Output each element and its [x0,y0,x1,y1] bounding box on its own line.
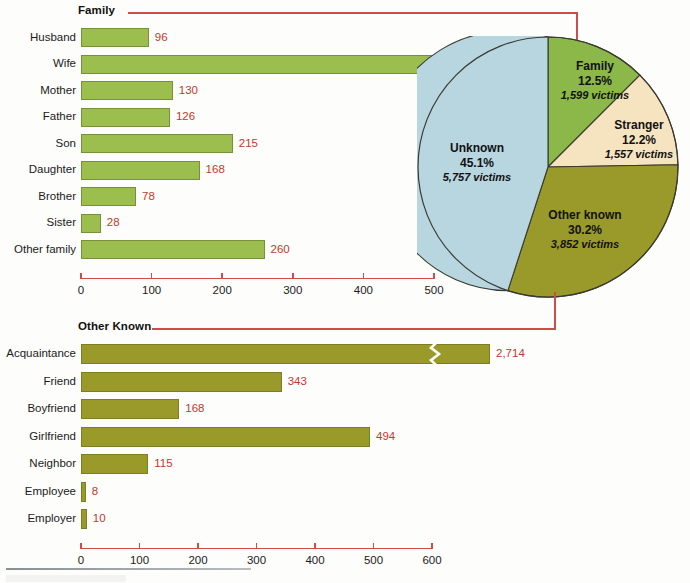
x-axis-tick [373,543,375,549]
bar-value-label: 10 [93,512,106,524]
bar[interactable] [81,344,490,364]
bar-value-label: 8 [92,485,98,497]
x-axis-tick-label: 100 [127,284,177,296]
x-axis-tick [363,273,365,279]
category-label: Boyfriend [0,402,76,414]
category-label: Other family [0,243,76,255]
bar-value-label: 168 [185,402,204,414]
category-label: Girlfriend [0,430,76,442]
x-axis-tick-label: 200 [197,284,247,296]
x-axis-tick [431,543,433,549]
bar-value-label: 215 [239,137,258,149]
category-label: Acquaintance [0,347,76,359]
x-axis-tick [221,273,223,279]
bar[interactable] [81,134,233,153]
bar-value-label: 96 [155,31,168,43]
category-label: Brother [0,190,76,202]
victim-offender-relationship-pie-chart: Family 12.5% 1,599 victims Stranger 12.2… [417,36,679,298]
pie-label-family: Family 12.5% 1,599 victims [540,59,650,103]
bar-value-label: 115 [154,457,172,469]
x-axis-line [81,278,434,280]
bar-value-label: 494 [376,430,395,442]
x-axis-tick-label: 0 [56,284,106,296]
x-axis-tick-label: 0 [56,554,106,566]
pie-label-stranger-percent: 12.2% [589,133,689,148]
pie-label-family-name: Family [540,59,650,74]
x-axis-tick [256,543,258,549]
x-axis-tick-label: 500 [349,554,399,566]
bar-value-label: 78 [142,190,155,202]
pie-label-other-known-victims: 3,852 victims [526,238,644,252]
bar[interactable] [81,240,265,259]
pie-label-unknown-victims: 5,757 victims [423,171,531,185]
other-known-section-title: Other Known [78,320,151,332]
bar[interactable] [81,28,149,47]
category-label: Son [0,137,76,149]
bar[interactable] [81,161,200,180]
category-label: Employee [0,485,76,497]
category-label: Father [0,110,76,122]
x-axis-tick [197,543,199,549]
pie-label-family-victims: 1,599 victims [540,89,650,103]
bar-value-label: 130 [179,84,198,96]
bar[interactable] [81,55,433,74]
footer-divider [6,568,251,570]
x-axis-tick-label: 600 [407,554,457,566]
x-axis-tick-label: 300 [268,284,318,296]
pie-label-stranger-name: Stranger [589,118,689,133]
pie-label-family-percent: 12.5% [540,74,650,89]
x-axis-tick [151,273,153,279]
x-axis-tick-label: 100 [115,554,165,566]
other-known-connector-horizontal [152,328,556,330]
x-axis-tick-label: 400 [290,554,340,566]
pie-label-stranger-victims: 1,557 victims [589,148,689,162]
category-label: Daughter [0,163,76,175]
bar-value-label: 168 [206,163,225,175]
bar-value-label: 126 [176,110,195,122]
footer-caption-strip [6,575,126,582]
bar[interactable] [81,427,370,447]
x-axis-tick [314,543,316,549]
x-axis-tick [80,543,82,549]
x-axis-tick-label: 400 [338,284,388,296]
category-label: Sister [0,216,76,228]
bar[interactable] [81,187,136,206]
figure-canvas: Family Husband96Wife498Mother130Father12… [0,0,690,583]
bar[interactable] [81,108,170,127]
pie-label-unknown: Unknown 45.1% 5,757 victims [423,141,531,185]
category-label: Husband [0,31,76,43]
pie-label-other-known-name: Other known [526,208,644,223]
bar-value-label: 2,714 [496,347,525,359]
bar[interactable] [81,214,101,233]
bar[interactable] [81,372,282,392]
bar[interactable] [81,399,179,419]
x-axis-tick [80,273,82,279]
category-label: Neighbor [0,457,76,469]
pie-label-unknown-percent: 45.1% [423,156,531,171]
x-axis-tick [139,543,141,549]
x-axis-tick [292,273,294,279]
pie-label-stranger: Stranger 12.2% 1,557 victims [589,118,689,162]
x-axis-tick-label: 300 [232,554,282,566]
category-label: Employer [0,512,76,524]
bar-value-label: 343 [288,375,307,387]
other-known-connector-vertical [554,292,556,329]
bar[interactable] [81,81,173,100]
category-label: Mother [0,84,76,96]
other-known-bar-chart: Acquaintance2,714Friend343Boyfriend168Gi… [0,335,690,565]
bar[interactable] [81,509,87,529]
bar[interactable] [81,482,86,502]
bar[interactable] [81,454,148,474]
category-label: Wife [0,57,76,69]
x-axis-tick-label: 200 [173,554,223,566]
pie-label-unknown-name: Unknown [423,141,531,156]
category-label: Friend [0,375,76,387]
pie-label-other-known: Other known 30.2% 3,852 victims [526,208,644,252]
bar-value-label: 260 [271,243,290,255]
family-bar-chart: Husband96Wife498Mother130Father126Son215… [0,0,460,310]
bar-value-label: 28 [107,216,120,228]
pie-label-other-known-percent: 30.2% [526,223,644,238]
